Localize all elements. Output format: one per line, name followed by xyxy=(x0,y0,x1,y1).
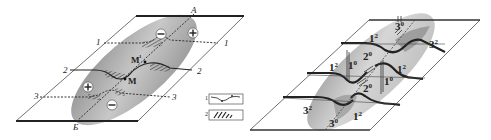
legend: 1 2 xyxy=(205,94,243,120)
label-3-0-bottom: 30 xyxy=(329,117,339,129)
label-m: M xyxy=(128,76,137,86)
point-m1 xyxy=(144,61,147,64)
label-b: Б xyxy=(72,122,79,132)
legend-1-num: 1 xyxy=(205,95,208,101)
left-diagram-svg: А Б 1 1 2 2 3 3 M 1 M 1 2 xyxy=(0,0,250,140)
section-3-left-label: 3 xyxy=(33,91,39,101)
section-1-right-label: 1 xyxy=(224,38,229,48)
legend-1-box xyxy=(209,94,243,104)
section-3-right-label: 3 xyxy=(171,92,177,102)
label-1-2-lower-right: 12 xyxy=(353,110,363,122)
right-diagram: 30 12 32 12 10 20 12 10 20 32 12 30 xyxy=(245,0,491,140)
label-a: А xyxy=(190,5,197,15)
section-2-right-label: 2 xyxy=(197,66,202,76)
right-diagram-svg: 30 12 32 12 10 20 12 10 20 32 12 30 xyxy=(245,0,491,140)
left-diagram: А Б 1 1 2 2 3 3 M 1 M 1 2 xyxy=(0,0,250,140)
section-2-left-label: 2 xyxy=(63,65,68,75)
legend-2-box xyxy=(209,110,243,120)
legend-2-num: 2 xyxy=(205,111,208,117)
section-1-left-label: 1 xyxy=(96,37,101,47)
point-m xyxy=(124,78,127,81)
